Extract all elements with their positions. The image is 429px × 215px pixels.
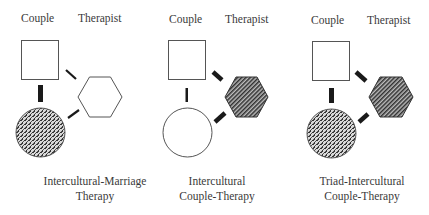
caption-line-1: Intercultural [147, 174, 287, 189]
therapist-hexagon-outline [78, 77, 122, 117]
therapist-label: Therapist [78, 12, 121, 24]
caption-line-2: Couple-Therapy [147, 189, 287, 204]
couple-partner-square [169, 41, 206, 80]
therapist-label: Therapist [367, 14, 410, 26]
couple-link-thick [329, 88, 334, 103]
panel-intercultural-couple-therapy [163, 41, 268, 158]
caption-line-2: Couple-Therapy [292, 189, 429, 204]
couple-label: Couple [169, 13, 202, 25]
couple-partner-square [22, 41, 59, 80]
therapist-link-thin-upper [66, 70, 76, 79]
panel-triad-intercultural-couple-therapy [307, 42, 413, 159]
therapist-label: Therapist [225, 13, 268, 25]
therapist-hexagon-hatched [225, 77, 268, 117]
couple-link-thick [38, 85, 43, 102]
therapist-link-thick-lower [215, 113, 225, 122]
caption-line-2: Therapy [25, 189, 165, 204]
caption-line-1: Intercultural-Marriage [25, 174, 165, 189]
panel-intercultural-marriage-therapy [16, 41, 122, 158]
therapist-hexagon-hatched [369, 77, 413, 117]
couple-label: Couple [21, 12, 54, 24]
couple-link-thin [186, 88, 189, 102]
couple-partner-circle-outline [163, 108, 212, 157]
caption-intercultural-marriage-therapy: Intercultural-Marriage Therapy [25, 174, 165, 204]
therapist-link-thick-upper [356, 72, 366, 81]
couple-label: Couple [311, 14, 344, 26]
caption-triad-intercultural-couple-therapy: Triad-Intercultural Couple-Therapy [292, 174, 429, 204]
caption-intercultural-couple-therapy: Intercultural Couple-Therapy [147, 174, 287, 204]
therapist-link-thin-lower [68, 110, 79, 118]
caption-line-1: Triad-Intercultural [292, 174, 429, 189]
couple-partner-circle-stippled [307, 109, 356, 158]
therapist-link-thick-lower [359, 114, 368, 122]
couple-partner-square [313, 42, 350, 81]
couple-partner-circle-stippled [16, 108, 65, 157]
therapist-link-thick-upper [213, 72, 222, 80]
